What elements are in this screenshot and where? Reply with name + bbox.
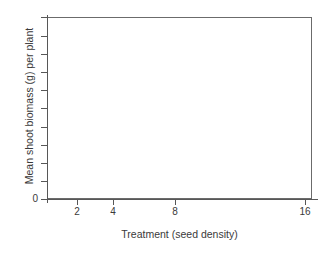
y-axis-tick <box>41 90 47 91</box>
plot-area <box>47 17 312 199</box>
x-axis-tick-label-4: 4 <box>98 206 128 218</box>
y-axis-tick <box>41 54 47 55</box>
y-axis-tick <box>41 199 47 200</box>
x-axis-title: Treatment (seed density) <box>47 228 312 240</box>
y-axis-tick <box>41 36 47 37</box>
y-axis-tick <box>41 72 47 73</box>
x-axis-tick-label-16: 16 <box>290 206 320 218</box>
chart-figure: 0 2 4 8 16 Treatment (seed density) Mean… <box>0 0 330 256</box>
x-axis-tick <box>113 199 114 205</box>
y-axis-tick <box>41 145 47 146</box>
x-axis-tick <box>305 199 306 205</box>
x-axis-tick-label-8: 8 <box>160 206 190 218</box>
y-axis-tick <box>41 181 47 182</box>
y-axis-title: Mean shoot biomass (g) per plant <box>23 15 35 197</box>
y-axis-tick <box>41 127 47 128</box>
y-axis-tick <box>41 163 47 164</box>
y-axis-tick <box>41 17 47 18</box>
y-axis-tick <box>41 108 47 109</box>
y-axis-line <box>47 15 48 203</box>
x-axis-tick <box>77 199 78 205</box>
x-axis-line <box>41 199 318 200</box>
x-axis-tick <box>175 199 176 205</box>
x-axis-tick-label-2: 2 <box>62 206 92 218</box>
